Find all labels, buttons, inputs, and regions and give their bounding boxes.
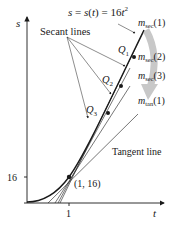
point-q1 (132, 55, 136, 59)
point-p (67, 175, 71, 179)
pointer-equation (118, 24, 135, 33)
secant-lines-label: Secant lines (40, 26, 90, 37)
q2-label: Q2 (102, 74, 114, 88)
limit-arrow-icon (141, 30, 158, 100)
point-label: (1, 16) (74, 178, 101, 190)
pointer-secant-1 (67, 37, 125, 66)
pointer-secant-2 (67, 37, 111, 94)
t-axis-label: t (153, 207, 157, 219)
s-axis-label: s (16, 17, 20, 29)
q3-label: Q3 (86, 104, 98, 118)
pointer-secant-3 (67, 37, 88, 118)
x-tick-label: 1 (66, 208, 71, 219)
mtan1-label: mtan(1) (138, 95, 165, 107)
tangent-line-label: Tangent line (112, 146, 162, 157)
tangent-line (48, 114, 138, 203)
y-tick-label: 16 (7, 172, 17, 183)
q1-label: Q1 (118, 44, 130, 58)
msec1-label: msec(1) (138, 17, 165, 29)
point-q3 (106, 111, 110, 115)
equation-label: s = s(t) = 16t2 (68, 5, 128, 19)
point-q2 (119, 84, 123, 88)
secant-tangent-diagram: s = s(t) = 16t2 s t 16 1 (1, 16) Secant … (0, 0, 180, 227)
